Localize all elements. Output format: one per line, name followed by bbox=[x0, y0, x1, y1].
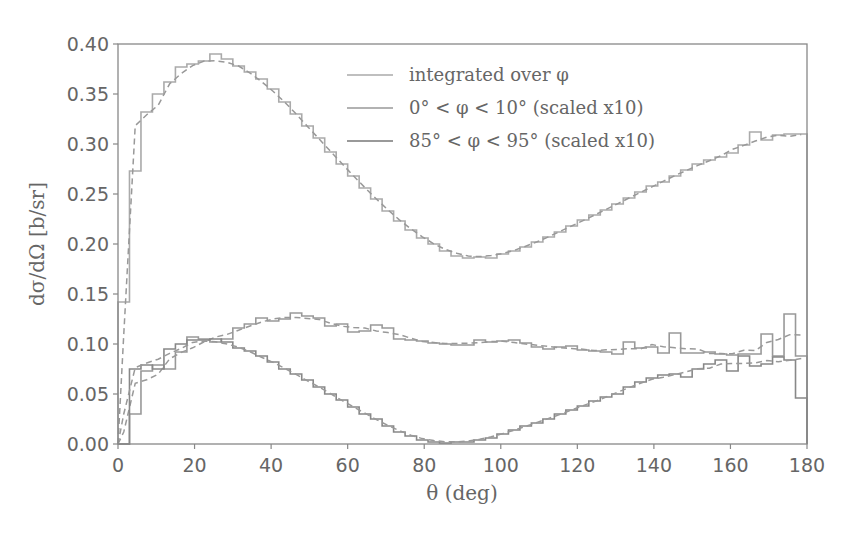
y-tick-label: 0.00 bbox=[67, 433, 109, 455]
y-tick-label: 0.20 bbox=[67, 233, 109, 255]
x-tick-label: 100 bbox=[483, 454, 519, 476]
y-tick-label: 0.35 bbox=[67, 83, 109, 105]
y-tick-label: 0.15 bbox=[67, 283, 109, 305]
y-tick-label: 0.40 bbox=[67, 33, 109, 55]
x-tick-label: 0 bbox=[112, 454, 124, 476]
x-tick-label: 60 bbox=[336, 454, 360, 476]
legend-label-phi-0-10: 0° < φ < 10° (scaled x10) bbox=[409, 97, 644, 118]
x-tick-label: 180 bbox=[789, 454, 825, 476]
x-tick-label: 20 bbox=[182, 454, 206, 476]
y-tick-label: 0.10 bbox=[67, 333, 109, 355]
model-curve-series-0 bbox=[118, 61, 801, 444]
legend: integrated over φ 0° < φ < 10° (scaled x… bbox=[347, 64, 655, 151]
x-tick-label: 120 bbox=[559, 454, 595, 476]
x-tick-label: 140 bbox=[636, 454, 672, 476]
legend-label-phi-85-95: 85° < φ < 95° (scaled x10) bbox=[409, 130, 655, 151]
y-tick-label: 0.30 bbox=[67, 133, 109, 155]
x-tick-label: 160 bbox=[712, 454, 748, 476]
x-tick-label: 80 bbox=[412, 454, 436, 476]
model-curve-series-2 bbox=[118, 341, 801, 444]
x-axis-ticks: 020406080100120140160180 bbox=[112, 444, 825, 476]
cross-section-chart: 020406080100120140160180 0.000.050.100.1… bbox=[0, 0, 856, 533]
y-tick-label: 0.25 bbox=[67, 183, 109, 205]
legend-label-integrated: integrated over φ bbox=[409, 64, 569, 85]
x-axis-label: θ (deg) bbox=[426, 481, 497, 505]
histogram-series-2 bbox=[118, 339, 807, 444]
model-curve-series-1 bbox=[118, 317, 801, 444]
y-axis-ticks: 0.000.050.100.150.200.250.300.350.40 bbox=[67, 33, 118, 455]
y-tick-label: 0.05 bbox=[67, 383, 109, 405]
histogram-series-1 bbox=[118, 313, 807, 444]
x-tick-label: 40 bbox=[259, 454, 283, 476]
y-axis-label: dσ/dΩ [b/sr] bbox=[25, 182, 49, 306]
